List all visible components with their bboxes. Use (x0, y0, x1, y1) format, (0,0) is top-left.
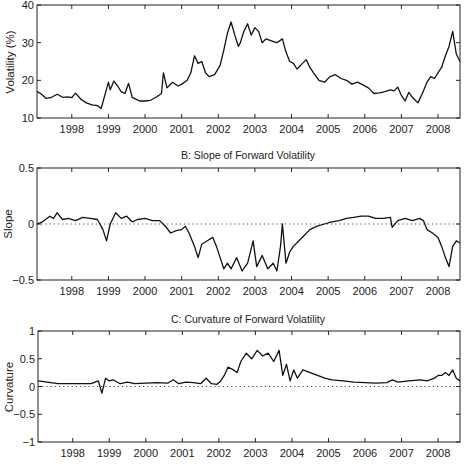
x-tick-label: 2002 (206, 123, 230, 135)
x-tick-label: 2003 (243, 123, 267, 135)
y-tick-label: 10 (22, 112, 34, 124)
panel-c-y-axis-label: Curvature (3, 362, 15, 413)
figure: 10203040 1998199920002001200220032004200… (0, 0, 468, 470)
y-tick-label: 30 (22, 37, 34, 49)
x-tick-label: 2001 (170, 447, 194, 459)
y-tick-label: 0 (28, 218, 34, 230)
x-tick-label: 1999 (96, 285, 120, 297)
y-tick-label: 0 (29, 381, 35, 393)
x-tick-label: 2000 (133, 285, 157, 297)
panel-b-x-ticks: 1998199920002001200220032004200520062007… (60, 168, 451, 297)
x-tick-label: 1999 (96, 123, 120, 135)
panel-a-frame (37, 5, 460, 118)
x-tick-label: 2003 (243, 447, 267, 459)
x-tick-label: 2002 (207, 447, 231, 459)
panel-c-curvature: C: Curvature of Forward Volatility −1−0.… (3, 313, 460, 459)
x-tick-label: 2006 (353, 447, 377, 459)
x-tick-label: 2007 (389, 447, 413, 459)
panel-b-slope: B: Slope of Forward Volatility −0.500.5 … (2, 149, 460, 297)
y-tick-label: −1 (22, 436, 35, 448)
panel-a-y-axis-label: Volatility (%) (4, 30, 16, 93)
panel-a-volatility: 10203040 1998199920002001200220032004200… (4, 0, 460, 135)
x-tick-label: 1999 (97, 447, 121, 459)
x-tick-label: 2004 (280, 447, 304, 459)
x-tick-label: 1998 (60, 123, 84, 135)
x-tick-label: 2003 (243, 285, 267, 297)
x-tick-label: 2008 (426, 285, 450, 297)
x-tick-label: 2006 (353, 123, 377, 135)
x-tick-label: 2007 (389, 123, 413, 135)
x-tick-label: 2004 (279, 123, 303, 135)
x-tick-label: 2006 (353, 285, 377, 297)
panel-b-y-axis-label: Slope (2, 209, 14, 238)
x-tick-label: 1998 (60, 447, 84, 459)
x-tick-label: 2005 (316, 123, 340, 135)
x-tick-label: 2005 (316, 285, 340, 297)
panel-a-y-ticks: 10203040 (22, 0, 460, 124)
x-tick-label: 2008 (426, 123, 450, 135)
x-tick-label: 2007 (389, 285, 413, 297)
x-tick-label: 2004 (279, 285, 303, 297)
y-tick-label: −0.5 (13, 408, 35, 420)
x-tick-label: 2002 (206, 285, 230, 297)
x-tick-label: 2000 (134, 447, 158, 459)
x-tick-label: 1998 (60, 285, 84, 297)
y-tick-label: 0.5 (19, 162, 34, 174)
panel-c-title: C: Curvature of Forward Volatility (171, 313, 326, 325)
y-tick-label: −0.5 (12, 274, 34, 286)
y-tick-label: 40 (22, 0, 34, 11)
y-tick-label: 1 (29, 325, 35, 337)
y-tick-label: 0.5 (20, 353, 35, 365)
x-tick-label: 2001 (169, 123, 193, 135)
panel-b-slope-line (37, 213, 460, 271)
y-tick-label: 20 (22, 74, 34, 86)
x-tick-label: 2001 (169, 285, 193, 297)
panel-b-title: B: Slope of Forward Volatility (181, 149, 316, 161)
x-tick-label: 2005 (316, 447, 340, 459)
x-tick-label: 2008 (426, 447, 450, 459)
panel-a-volatility-line (37, 22, 460, 109)
panel-c-x-ticks: 1998199920002001200220032004200520062007… (60, 331, 450, 459)
panel-a-x-ticks: 1998199920002001200220032004200520062007… (60, 5, 451, 135)
x-tick-label: 2000 (133, 123, 157, 135)
